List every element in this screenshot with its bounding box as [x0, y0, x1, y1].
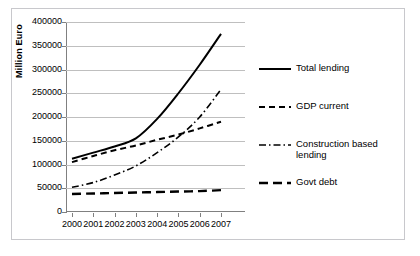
series-line: [72, 89, 221, 187]
x-axis-tick-label: 2000: [62, 219, 82, 229]
legend-item[interactable]: Total lending: [258, 62, 349, 75]
x-axis-tick-mark: [72, 213, 73, 217]
y-axis-tick-label: 50000: [37, 183, 62, 192]
y-axis-tick-label: 350000: [32, 41, 62, 50]
legend-item[interactable]: Govt debt: [258, 176, 337, 189]
x-axis-tick-label: 2006: [190, 219, 210, 229]
x-axis-tick-label: 2003: [126, 219, 146, 229]
x-axis-tick-mark: [93, 213, 94, 217]
x-axis-tick-label: 2002: [105, 219, 125, 229]
legend-label: Total lending: [296, 62, 349, 73]
y-axis-tick-label: 300000: [32, 65, 62, 74]
legend-label: Govt debt: [296, 176, 337, 187]
x-axis-tick-mark: [115, 213, 116, 217]
series-line: [72, 190, 221, 194]
x-axis-tick-label: 2005: [168, 219, 188, 229]
legend-label: Construction based lending: [296, 138, 396, 160]
y-axis-tick-label: 250000: [32, 88, 62, 97]
series-line: [72, 34, 221, 159]
x-axis-tick-mark: [221, 213, 222, 217]
series-line: [72, 122, 221, 162]
x-axis-tick-mark: [200, 213, 201, 217]
y-axis-tick-label: 100000: [32, 160, 62, 169]
x-axis-tick-mark: [136, 213, 137, 217]
chart-figure: Million Euro 050000100000150000200000250…: [0, 0, 420, 256]
legend-item[interactable]: GDP current: [258, 100, 349, 113]
legend-label: GDP current: [296, 100, 349, 111]
x-axis-tick-label: 2001: [83, 219, 103, 229]
plot-area: [66, 22, 245, 212]
legend-line-sample: [258, 101, 292, 113]
x-axis-tick-labels: 20002001200220032004200520062007: [66, 219, 245, 233]
x-axis-tick-label: 2004: [147, 219, 167, 229]
legend-item[interactable]: Construction based lending: [258, 138, 396, 160]
y-axis-tick-label: 150000: [32, 136, 62, 145]
x-axis-tick-label: 2007: [211, 219, 231, 229]
series-lines: [66, 22, 245, 212]
legend-line-sample: [258, 139, 292, 151]
x-axis-tick-mark: [178, 213, 179, 217]
y-axis-tick-labels: 0500001000001500002000002500003000003500…: [0, 22, 62, 213]
y-axis-tick-label: 400000: [32, 17, 62, 26]
x-axis-tick-mark: [157, 213, 158, 217]
y-axis-tick-label: 200000: [32, 112, 62, 121]
legend-line-sample: [258, 63, 292, 75]
legend-line-sample: [258, 177, 292, 189]
